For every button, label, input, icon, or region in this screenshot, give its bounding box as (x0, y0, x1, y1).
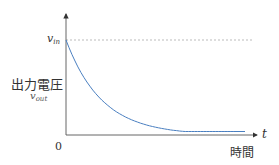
t-axis-symbol: t (262, 127, 267, 141)
v-in-label: vin (47, 32, 60, 46)
origin-label: 0 (55, 140, 62, 153)
v-in-subscript: in (53, 38, 60, 46)
v-out-label: vout (30, 90, 47, 103)
v-out-subscript: out (36, 95, 48, 103)
decay-curve (66, 40, 245, 132)
x-axis-title: 時間 (230, 143, 254, 160)
